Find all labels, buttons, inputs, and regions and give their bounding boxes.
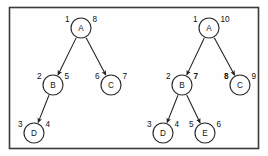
finish-time: 9 xyxy=(252,72,257,81)
discovery-time: 6 xyxy=(95,72,100,81)
finish-time: 8 xyxy=(93,15,98,24)
node-label: A xyxy=(78,24,84,33)
discovery-time: 2 xyxy=(166,72,171,81)
node-label: A xyxy=(206,24,212,33)
finish-time: 4 xyxy=(46,120,51,129)
finish-time: 4 xyxy=(175,120,180,129)
finish-time: 5 xyxy=(65,72,70,81)
discovery-time: 2 xyxy=(37,72,42,81)
node-label: D xyxy=(160,129,166,138)
discovery-time: 5 xyxy=(189,120,194,129)
discovery-time: 3 xyxy=(147,120,152,129)
node-label: D xyxy=(31,129,37,138)
finish-time: 10 xyxy=(221,15,231,24)
discovery-time: 8 xyxy=(224,72,229,81)
discovery-time: 3 xyxy=(18,120,23,129)
discovery-time: 1 xyxy=(65,15,70,24)
finish-time: 6 xyxy=(217,120,222,129)
discovery-time: 1 xyxy=(193,15,198,24)
node-label: E xyxy=(202,129,208,138)
node-label: B xyxy=(179,81,185,90)
node-label: C xyxy=(108,81,114,90)
figure-root: A18B25C67D34A110B27C89D34E56 xyxy=(0,0,268,156)
node-label: C xyxy=(237,81,243,90)
finish-time: 7 xyxy=(123,72,128,81)
node-label: B xyxy=(50,81,56,90)
finish-time: 7 xyxy=(194,72,199,81)
tree-diagram: A18B25C67D34A110B27C89D34E56 xyxy=(0,0,268,156)
